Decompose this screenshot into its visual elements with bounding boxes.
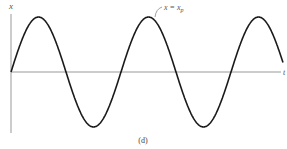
t-axis-label: t (283, 68, 286, 77)
figure-caption: (d) (138, 136, 148, 145)
annotation-main: x = x (163, 3, 181, 12)
y-axis-label: x (8, 1, 13, 11)
annotation-label: x = xp (163, 3, 184, 13)
annotation-leader-line (155, 7, 162, 17)
annotation-subscript: p (180, 7, 184, 13)
sinusoid-figure: x t x = xp (d) (0, 0, 287, 149)
